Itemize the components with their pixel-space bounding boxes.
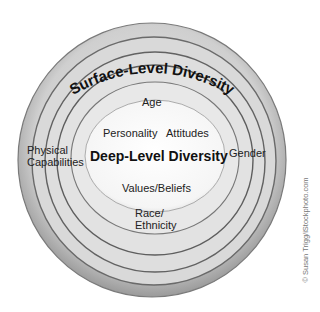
label-attitudes: Attitudes (166, 127, 209, 140)
photo-credit: © Susan Trigg/iStockphoto.com (301, 177, 310, 282)
label-age: Age (142, 96, 162, 109)
label-values-beliefs: Values/Beliefs (122, 182, 191, 195)
label-race-line2: Ethnicity (135, 219, 177, 232)
onion-diagram: Surface-Level Diversity Age Personality … (0, 0, 320, 312)
label-physical-line2: Capabilities (27, 156, 84, 169)
label-gender: Gender (229, 147, 266, 160)
label-personality: Personality (103, 127, 157, 140)
deep-level-title: Deep-Level Diversity (90, 148, 228, 164)
